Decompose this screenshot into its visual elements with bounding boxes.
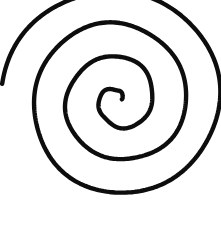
figure-canvas: [0, 0, 221, 231]
spiral-drawing: [0, 0, 221, 231]
